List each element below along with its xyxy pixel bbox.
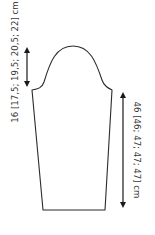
sleeve-length-label: 46 [46; 47; 47; 47] cm xyxy=(132,102,142,199)
sleeve-outline xyxy=(32,46,112,210)
cap-height-label: 16 [17,5; 19,5; 20,5; 22] cm xyxy=(10,1,20,122)
